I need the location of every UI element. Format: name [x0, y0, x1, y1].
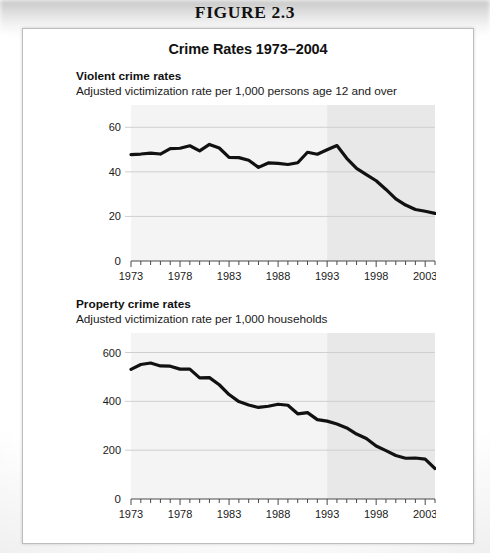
svg-text:0: 0 [115, 255, 121, 267]
chart-violent-crime-rates: Violent crime rates Adjusted victimizati… [23, 69, 473, 299]
svg-text:2003: 2003 [413, 270, 436, 282]
plot-area-property: 02004006001973197819831988199319982003 [76, 329, 436, 525]
plot-area-violent: 02040601973197819831988199319982003 [76, 101, 436, 287]
svg-text:1978: 1978 [168, 508, 192, 520]
figure-panel: Crime Rates 1973–2004 Violent crime rate… [22, 28, 474, 544]
svg-text:400: 400 [103, 395, 121, 407]
svg-text:1998: 1998 [364, 270, 388, 282]
panel-title: Crime Rates 1973–2004 [23, 41, 473, 57]
svg-text:1988: 1988 [266, 508, 290, 520]
chart-heading-property: Property crime rates [76, 297, 191, 311]
svg-text:40: 40 [109, 166, 121, 178]
svg-text:2003: 2003 [413, 508, 436, 520]
svg-text:1993: 1993 [315, 270, 339, 282]
figure-page: FIGURE 2.3 Crime Rates 1973–2004 Violent… [0, 0, 490, 553]
svg-text:200: 200 [103, 444, 121, 456]
chart-subheading-property: Adjusted victimization rate per 1,000 ho… [76, 312, 327, 326]
svg-text:20: 20 [109, 210, 121, 222]
svg-text:1988: 1988 [266, 270, 290, 282]
svg-text:1998: 1998 [364, 508, 388, 520]
svg-text:1978: 1978 [168, 270, 192, 282]
svg-text:1983: 1983 [217, 270, 241, 282]
chart-subheading-violent: Adjusted victimization rate per 1,000 pe… [76, 84, 397, 98]
svg-text:1973: 1973 [119, 508, 143, 520]
chart-heading-violent: Violent crime rates [76, 69, 181, 83]
chart-property-crime-rates: Property crime rates Adjusted victimizat… [23, 297, 473, 537]
svg-text:1983: 1983 [217, 508, 241, 520]
svg-text:1973: 1973 [119, 270, 143, 282]
svg-text:600: 600 [103, 347, 121, 359]
svg-text:60: 60 [109, 121, 121, 133]
svg-text:1993: 1993 [315, 508, 339, 520]
svg-text:0: 0 [115, 493, 121, 505]
figure-caption: FIGURE 2.3 [0, 2, 490, 23]
